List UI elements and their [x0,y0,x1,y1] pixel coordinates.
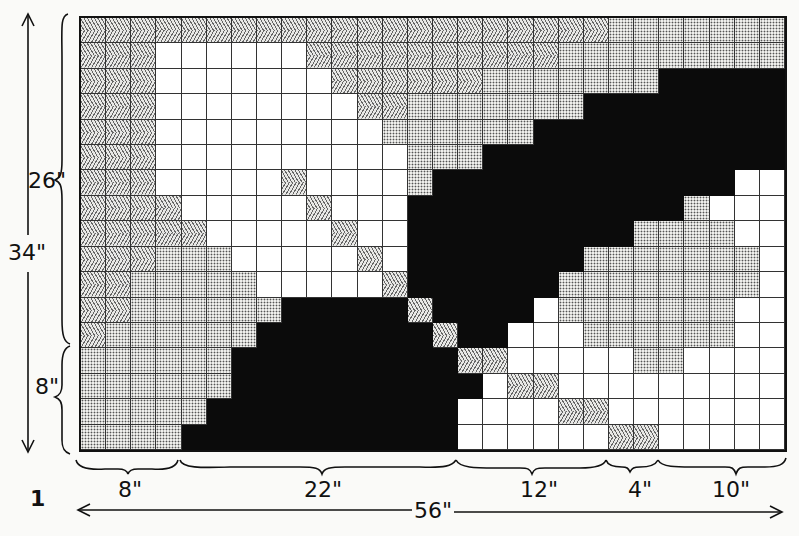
width-part-label-12: 12" [520,479,558,501]
height-part-label-26: 26" [28,170,66,192]
figure-number: 1 [30,488,45,510]
width-part-label-22: 22" [304,479,342,501]
width-braces [76,458,786,474]
dimension-annotations [0,0,799,536]
height-arrow [22,14,34,452]
height-total-label: 34" [8,242,46,264]
width-total-label: 56" [414,500,452,522]
brace-8 [55,346,70,454]
width-part-label-8: 8" [118,479,142,501]
height-part-label-8: 8" [35,376,59,398]
width-part-label-10: 10" [712,479,750,501]
width-part-label-4: 4" [628,479,652,501]
